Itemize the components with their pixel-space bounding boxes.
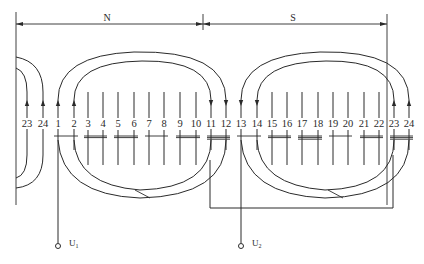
terminal-u1-label: U1 [69,238,79,249]
slot-4: 4 [100,92,107,165]
slot-number: 16 [282,118,293,129]
slot-6: 6 [131,92,138,165]
slot-17: 17 [296,92,308,165]
slot-number: 12 [221,118,232,129]
slot-number: 3 [85,118,90,129]
slot-number: 2 [71,118,76,129]
slot-number: 22 [374,118,385,129]
terminal-u1-icon [56,244,61,249]
slot-number: 13 [236,118,247,129]
arrow-up-icon [72,100,76,106]
slot-conductors: 2324123456789101112131415161718192021222… [21,92,415,165]
slot-number: 24 [404,118,415,129]
arrow-up-icon [41,100,45,106]
pole-label-n: N [103,12,110,23]
slot-19: 19 [327,92,339,165]
arrow-down-icon [224,100,228,106]
slot-number: 15 [267,118,278,129]
arrow-up-icon [392,100,396,106]
slot-number: 5 [115,118,120,129]
terminal-u2-label: U2 [252,238,262,249]
slot-number: 21 [359,118,370,129]
arrow-up-icon [407,100,411,106]
pole-label-s: S [290,12,296,23]
slot-number: 7 [146,118,151,129]
slot-5: 5 [115,92,122,165]
lead-wires: U1 U2 [56,150,262,249]
slot-number: 1 [55,118,60,129]
slot-10: 10 [190,92,202,165]
slot-3: 3 [85,92,92,165]
slot-number: 10 [191,118,202,129]
slot-7: 7 [146,92,153,165]
slot-number: 19 [328,118,339,129]
slot-number: 23 [22,118,33,129]
slot-16: 16 [281,92,293,165]
slot-number: 9 [177,118,182,129]
slot-number: 4 [100,118,106,129]
slot-number: 6 [131,118,136,129]
arrow-up-icon [25,100,29,106]
slot-number: 17 [297,118,308,129]
slot-number: 20 [343,118,354,129]
terminal-u2-icon [239,244,244,249]
winding-diagram: N S [0,0,424,264]
slot-number: 24 [38,118,49,129]
slot-20: 20 [342,92,354,165]
slot-number: 14 [252,118,263,129]
slot-18: 18 [312,92,324,165]
slot-22: 22 [373,92,385,165]
slot-number: 11 [206,118,216,129]
pole-pitch-markers: N S [16,12,387,205]
slot-15: 15 [266,92,278,165]
slot-number: 23 [389,118,400,129]
arrow-down-icon [239,100,243,106]
slot-number: 18 [313,118,324,129]
arrow-down-icon [255,100,259,106]
arrow-up-icon [56,100,60,106]
slot-21: 21 [358,92,370,165]
arrow-down-icon [209,100,213,106]
slot-8: 8 [161,92,168,165]
slot-9: 9 [177,92,184,165]
slot-number: 8 [161,118,166,129]
